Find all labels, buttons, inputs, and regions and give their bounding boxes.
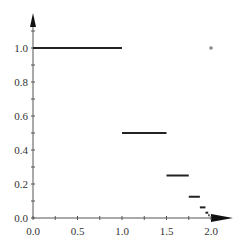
x-tick-label: 0.0	[26, 225, 40, 237]
data-segments	[33, 48, 210, 215]
isolated-point	[209, 46, 213, 50]
y-tick-label: 0.8	[14, 76, 28, 88]
tick-marks	[31, 31, 211, 220]
x-tick-label: 1.5	[160, 225, 174, 237]
chart: 0.00.51.01.52.00.00.20.40.60.81.0	[0, 0, 245, 250]
y-tick-label: 0.4	[14, 144, 28, 156]
axes	[30, 13, 233, 222]
y-tick-label: 1.0	[14, 42, 28, 54]
tick-labels: 0.00.51.01.52.00.00.20.40.60.81.0	[14, 42, 218, 237]
y-tick-label: 0.0	[14, 212, 28, 224]
data-points	[209, 46, 213, 50]
x-tick-label: 0.5	[71, 225, 85, 237]
x-tick-label: 2.0	[204, 225, 218, 237]
y-axis-arrow-icon	[30, 13, 36, 27]
x-axis-arrow-icon	[211, 214, 233, 222]
y-tick-label: 0.6	[14, 110, 28, 122]
x-tick-label: 1.0	[115, 225, 129, 237]
y-tick-label: 0.2	[14, 178, 28, 190]
